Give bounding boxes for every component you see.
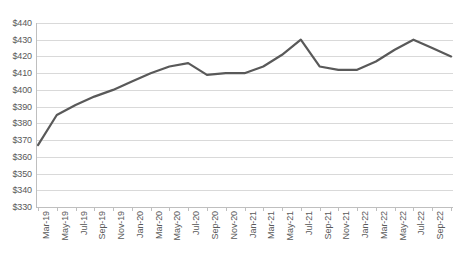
- x-tick-label: May-22: [399, 211, 408, 240]
- x-tick-label: Nov-20: [230, 211, 239, 239]
- y-tick-label: $420: [12, 52, 32, 61]
- x-tick-label: May-19: [61, 211, 70, 240]
- y-axis: $440$430$420$410$400$390$380$370$360$350…: [0, 0, 36, 262]
- x-tick-label: Jul-21: [305, 211, 314, 235]
- y-tick-label: $430: [12, 35, 32, 44]
- x-tick-label: Nov-21: [342, 211, 351, 239]
- x-tick-label: Nov-19: [117, 211, 126, 239]
- x-tick-label: Mar-22: [380, 211, 389, 239]
- x-tick-label: Mar-20: [155, 211, 164, 239]
- x-tick-label: Jul-19: [80, 211, 89, 235]
- x-axis: Mar-19May-19Jul-19Sep-19Nov-19Jan-20Mar-…: [36, 209, 453, 262]
- x-tick-label: Sep-20: [211, 211, 220, 239]
- y-tick-label: $330: [12, 203, 32, 212]
- x-tick-label: Jul-22: [417, 211, 426, 235]
- y-tick-label: $440: [12, 19, 32, 28]
- line-chart: $440$430$420$410$400$390$380$370$360$350…: [0, 0, 453, 262]
- x-tick-label: Jan-22: [361, 211, 370, 238]
- x-tick-label: Jan-21: [249, 211, 258, 238]
- x-tick-label: Mar-21: [267, 211, 276, 239]
- x-tick-label: Sep-19: [98, 211, 107, 239]
- x-tick-label: Sep-21: [324, 211, 333, 239]
- x-tick-label: May-21: [286, 211, 295, 240]
- y-tick-label: $360: [12, 152, 32, 161]
- x-tick-label: Jul-20: [192, 211, 201, 235]
- y-tick-label: $380: [12, 119, 32, 128]
- y-tick-label: $410: [12, 69, 32, 78]
- y-tick-label: $390: [12, 102, 32, 111]
- y-tick-label: $370: [12, 136, 32, 145]
- y-tick-label: $350: [12, 169, 32, 178]
- y-tick-label: $340: [12, 186, 32, 195]
- x-tick-label: Mar-19: [42, 211, 51, 239]
- x-tick-label: Sep-22: [436, 211, 445, 239]
- x-tick-label: Jan-20: [136, 211, 145, 238]
- x-tick-label: May-20: [173, 211, 182, 240]
- y-tick-label: $400: [12, 85, 32, 94]
